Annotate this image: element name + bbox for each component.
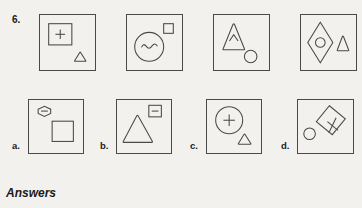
option-panel-a-graphic xyxy=(29,100,83,153)
question-panel-4-graphic xyxy=(301,15,356,70)
option-panel-c[interactable] xyxy=(206,99,262,154)
question-number: 6. xyxy=(12,14,20,25)
question-panel-2-graphic xyxy=(127,15,182,70)
question-panel-4[interactable] xyxy=(300,14,357,71)
question-panel-3-graphic xyxy=(214,15,269,70)
question-panel-3[interactable] xyxy=(213,14,270,71)
option-panel-c-graphic xyxy=(207,100,261,153)
question-panel-1-graphic xyxy=(40,15,95,70)
option-panel-b-graphic xyxy=(117,100,171,153)
option-label-c: c. xyxy=(190,140,198,151)
option-panel-a[interactable] xyxy=(28,99,84,154)
question-panel-2[interactable] xyxy=(126,14,183,71)
answers-heading: Answers xyxy=(6,186,56,200)
worksheet-page: 6. a. xyxy=(0,0,362,208)
question-panel-1[interactable] xyxy=(39,14,96,71)
option-label-a: a. xyxy=(12,140,20,151)
option-label-d: d. xyxy=(281,140,289,151)
option-panel-b[interactable] xyxy=(116,99,172,154)
option-panel-d-graphic xyxy=(298,100,353,153)
option-panel-d[interactable] xyxy=(297,99,354,154)
option-label-b: b. xyxy=(100,140,108,151)
